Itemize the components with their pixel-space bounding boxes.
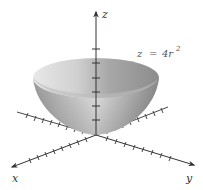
- y-axis-line: [96, 135, 194, 165]
- equation-label: z = 4r 2: [136, 45, 181, 59]
- front-axes: x y: [12, 135, 194, 185]
- paraboloid-figure: z x y z = 4r 2: [0, 0, 203, 190]
- equation-lhs: z: [136, 48, 143, 59]
- equation-rhs: 4r: [161, 48, 174, 59]
- z-axis-label: z: [101, 8, 108, 21]
- y-axis-label: y: [185, 172, 193, 185]
- x-axis-label: x: [12, 172, 19, 185]
- equation-exponent: 2: [175, 45, 181, 53]
- equation-equals: =: [149, 48, 157, 59]
